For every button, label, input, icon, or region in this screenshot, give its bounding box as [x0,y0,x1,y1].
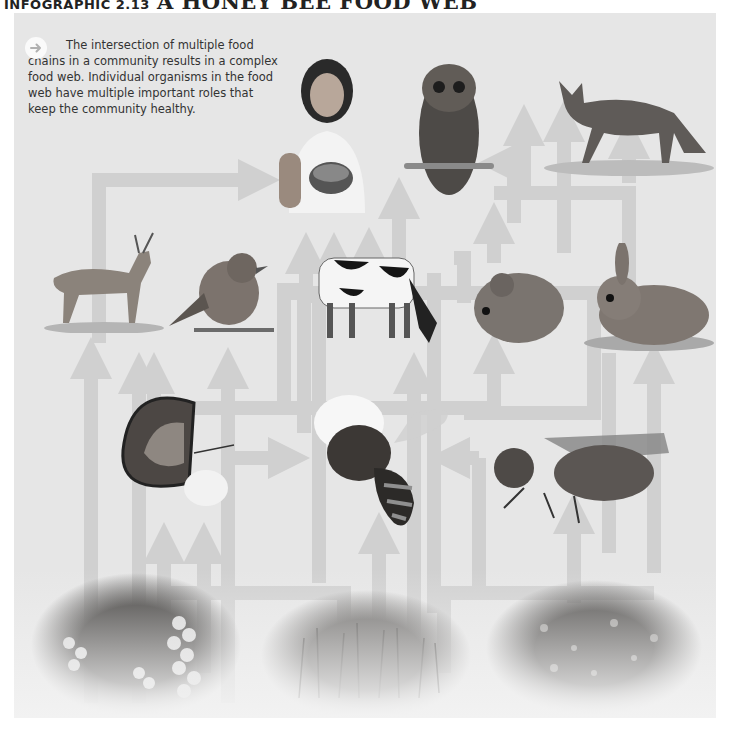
infographic-title: INFOGRAPHIC 2.13 A HONEY BEE FOOD WEB [4,0,478,14]
clover-image [484,578,704,718]
organism-fly: Fly [484,418,684,528]
intro-block: The intersection of multiple food chains… [28,37,278,117]
organism-deer: Deer [39,223,169,333]
honey-bee-image [294,393,464,533]
fox-image [534,53,714,183]
bird-image [164,238,274,338]
mouse-image [464,263,564,348]
organism-owl: Owl [404,53,494,213]
butterfly-image [114,383,239,518]
cow-image [309,248,444,348]
organism-human: Human [269,53,379,213]
food-web-panel: The intersection of multiple food chains… [14,13,716,718]
owl-image [404,53,494,213]
rabbit-image [574,243,714,353]
organism-honey-bee: Honey bee [294,393,464,533]
arrow-right-circle-icon [25,37,47,59]
organism-clover: Clover / wildflowers [484,578,704,718]
intro-text: The intersection of multiple food chains… [28,37,278,117]
organism-cow: Cow [309,248,444,348]
organism-blueberries: Blueberries [29,573,244,718]
organism-bird: Bird [164,238,274,338]
meadow-image [259,588,474,718]
deer-image [39,223,169,333]
fly-image [484,418,684,528]
organism-fox: Fox [534,53,714,183]
title-main: A HONEY BEE FOOD WEB [157,0,478,14]
organism-mouse: Mouse [464,263,564,348]
woman-eating-fruit-image [269,53,379,213]
organism-butterfly: Butterfly [114,383,239,518]
organism-meadow: Meadow grasses [259,588,474,718]
title-prefix: INFOGRAPHIC 2.13 [4,0,150,12]
blueberry-bush-image [29,573,244,718]
organism-rabbit: Rabbit [574,243,714,353]
